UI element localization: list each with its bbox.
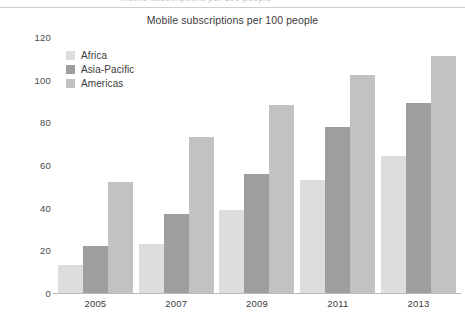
bar <box>300 180 325 293</box>
y-axis-tick-label: 120 <box>5 32 51 43</box>
x-axis-tick-label: 2011 <box>297 298 378 309</box>
bar-group <box>297 37 378 293</box>
legend-item: Asia-Pacific <box>66 62 134 76</box>
chart-figure: Mobile subscriptions per 100 people Mobi… <box>0 0 465 329</box>
bar-group <box>378 37 459 293</box>
legend-item-label: Asia-Pacific <box>81 64 134 75</box>
x-axis-tick-label: 2009 <box>217 298 298 309</box>
y-axis-tick-label: 80 <box>5 117 51 128</box>
header-divider <box>0 7 465 8</box>
y-axis-tick-label: 100 <box>5 74 51 85</box>
bar <box>164 214 189 293</box>
legend-swatch-icon <box>66 79 75 88</box>
bar <box>83 246 108 293</box>
bar <box>189 137 214 293</box>
bar <box>58 265 83 293</box>
bar-group <box>217 37 298 293</box>
bar <box>381 156 406 293</box>
x-axis-line <box>53 293 461 294</box>
legend-item: Africa <box>66 48 134 62</box>
legend-swatch-icon <box>66 51 75 60</box>
bar-group <box>136 37 217 293</box>
clipped-header-strip: Mobile subscriptions per 100 people <box>0 0 465 7</box>
y-axis-tick-label: 0 <box>5 288 51 299</box>
bar <box>219 210 244 293</box>
bar <box>108 182 133 293</box>
y-axis-tick-labels: 120100806040200 <box>0 0 51 329</box>
bar <box>139 244 164 293</box>
bar <box>269 105 294 293</box>
bar <box>431 56 456 293</box>
clipped-header-text: Mobile subscriptions per 100 people <box>120 0 271 3</box>
x-axis-tick-labels: 20052007200920112013 <box>55 298 459 309</box>
y-axis-tick-label: 60 <box>5 160 51 171</box>
bar <box>406 103 431 293</box>
bar <box>244 174 269 293</box>
x-axis-tick-label: 2013 <box>378 298 459 309</box>
chart-legend: AfricaAsia-PacificAmericas <box>66 48 134 90</box>
x-axis-tick-label: 2005 <box>55 298 136 309</box>
bar <box>350 75 375 293</box>
bar <box>325 127 350 293</box>
y-axis-tick-label: 20 <box>5 245 51 256</box>
chart-title: Mobile subscriptions per 100 people <box>0 14 465 26</box>
y-axis-tick-label: 40 <box>5 202 51 213</box>
legend-item-label: Americas <box>81 78 123 89</box>
legend-item: Americas <box>66 76 134 90</box>
x-axis-tick-label: 2007 <box>136 298 217 309</box>
legend-item-label: Africa <box>81 50 107 61</box>
legend-swatch-icon <box>66 65 75 74</box>
